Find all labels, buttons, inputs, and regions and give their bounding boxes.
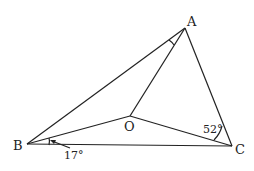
angle-label-52: 52° xyxy=(203,123,223,136)
angle-arc-a xyxy=(169,40,174,45)
angle-label-17: 17° xyxy=(64,149,84,162)
label-a: A xyxy=(186,14,197,29)
angle-arc-b xyxy=(49,138,50,145)
label-c: C xyxy=(235,142,245,157)
segment-ob xyxy=(27,116,130,144)
segment-bc xyxy=(27,144,232,146)
segment-oa xyxy=(130,28,185,116)
geometry-diagram: A B C O 17° 52° xyxy=(0,0,254,171)
label-o: O xyxy=(124,119,135,134)
segment-ab xyxy=(27,28,185,144)
label-b: B xyxy=(13,138,23,153)
